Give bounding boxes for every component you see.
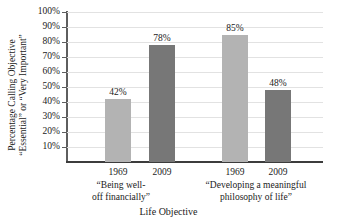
x-tick-label-1969-2: 1969 — [212, 167, 258, 178]
y-tick-label-50: 50% — [26, 82, 60, 92]
y-tick-mark — [62, 117, 67, 118]
gridline — [67, 72, 323, 73]
bar-1969-42[interactable] — [105, 99, 131, 162]
bar-2009-48[interactable] — [265, 90, 291, 162]
y-axis-title-line-1: Percentage Calling Objective — [7, 15, 18, 175]
x-tick-label-2009-1: 2009 — [139, 167, 185, 178]
y-tick-mark — [62, 87, 67, 88]
y-tick-mark — [62, 42, 67, 43]
y-tick-label-90: 90% — [26, 22, 60, 32]
y-tick-mark — [62, 27, 67, 28]
x-group-label-line-2: philosophy of life” — [178, 192, 334, 204]
y-tick-mark — [62, 132, 67, 133]
y-tick-mark — [62, 102, 67, 103]
x-group-label-line-2: off financially” — [62, 192, 180, 204]
x-group-label-1: “Developing a meaningfulphilosophy of li… — [178, 180, 334, 203]
y-tick-label-30: 30% — [26, 112, 60, 122]
gridline — [67, 57, 323, 58]
y-tick-label-10: 10% — [26, 142, 60, 152]
y-tick-mark — [62, 57, 67, 58]
y-tick-label-40: 40% — [26, 97, 60, 107]
y-tick-mark — [62, 147, 67, 148]
y-tick-label-60: 60% — [26, 67, 60, 77]
bar-value-label: 85% — [213, 23, 257, 33]
bar-chart: Percentage Calling Objective “Essential”… — [0, 0, 337, 224]
gridline — [67, 12, 323, 13]
gridline — [67, 42, 323, 43]
x-group-label-line-1: “Being well- — [62, 180, 180, 192]
x-tick-label-1969-0: 1969 — [95, 167, 141, 178]
plot-area: 42%78%85%48% — [67, 12, 323, 162]
y-tick-mark — [62, 12, 67, 13]
gridline — [67, 27, 323, 28]
bar-value-label: 42% — [96, 87, 140, 97]
bar-value-label: 78% — [140, 33, 184, 43]
x-group-label-line-1: “Developing a meaningful — [178, 180, 334, 192]
x-axis-title: Life Objective — [0, 206, 337, 218]
bar-2009-78[interactable] — [149, 45, 175, 162]
y-tick-mark — [62, 72, 67, 73]
y-tick-label-20: 20% — [26, 127, 60, 137]
y-axis-tick-labels: 100%90%80%70%60%50%40%30%20%10% — [25, 0, 60, 224]
y-tick-label-100: 100% — [26, 7, 60, 17]
x-tick-label-2009-3: 2009 — [255, 167, 301, 178]
x-group-label-0: “Being well-off financially” — [62, 180, 180, 203]
y-tick-label-70: 70% — [26, 52, 60, 62]
bar-value-label: 48% — [256, 78, 300, 88]
y-tick-label-80: 80% — [26, 37, 60, 47]
bar-1969-85[interactable] — [222, 35, 248, 163]
